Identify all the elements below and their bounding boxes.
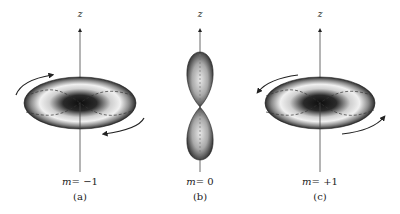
- m-label-c: m= +1: [302, 176, 338, 187]
- m-label-b: m= 0: [186, 176, 213, 187]
- panel-a: [16, 30, 144, 172]
- panel-caption-b: (b): [193, 191, 207, 202]
- m-value: = −1: [72, 176, 98, 187]
- z-axis-label-b: z: [198, 9, 203, 19]
- panel-caption-c: (c): [313, 191, 326, 202]
- m-value: = +1: [312, 176, 338, 187]
- z-axis-label-c: z: [318, 9, 323, 19]
- panel-caption-a: (a): [73, 191, 87, 202]
- m-label-a: m= −1: [62, 176, 98, 187]
- m-value: = 0: [196, 176, 214, 187]
- panel-b: [187, 30, 213, 172]
- z-axis-label-a: z: [78, 9, 83, 19]
- panel-c: [258, 30, 384, 172]
